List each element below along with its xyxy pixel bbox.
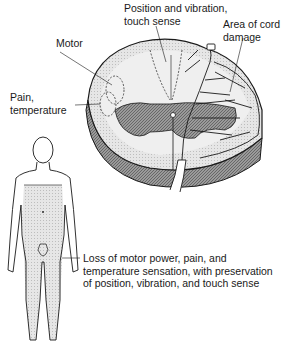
caption-loss-of-function: Loss of motor power, pain, and temperatu…	[83, 252, 273, 290]
diagram-canvas	[0, 0, 297, 350]
label-position-vibration-touch: Position and vibration, touch sense	[124, 2, 227, 27]
label-pain-temperature: Pain, temperature	[10, 91, 67, 116]
figure-head	[33, 137, 53, 163]
label-motor: Motor	[56, 37, 83, 50]
label-area-of-cord-damage: Area of cord damage	[223, 18, 280, 43]
spinal-cord-section	[86, 39, 262, 192]
body-shaded-region	[22, 185, 64, 340]
human-figure	[8, 137, 78, 340]
